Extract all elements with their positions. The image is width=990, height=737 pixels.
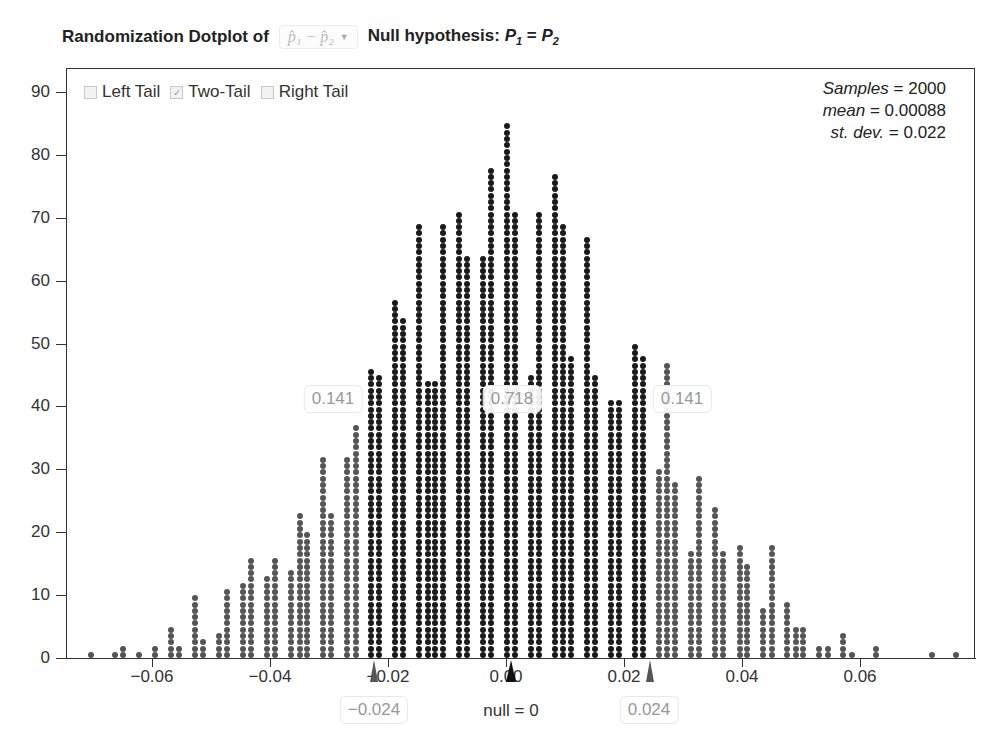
dot — [464, 388, 470, 394]
dot — [353, 576, 359, 582]
dot — [432, 388, 438, 394]
dot — [608, 602, 614, 608]
left-tail-checkbox[interactable]: Left Tail — [84, 82, 160, 102]
dot — [536, 539, 542, 545]
dot — [425, 425, 431, 431]
dot — [528, 583, 534, 589]
dot — [688, 627, 694, 633]
dot — [425, 602, 431, 608]
dot — [528, 558, 534, 564]
hypothesis-lhs: P1 — [505, 26, 522, 45]
dot — [640, 564, 646, 570]
dot — [608, 539, 614, 545]
dot — [552, 218, 558, 224]
dot — [136, 652, 142, 658]
dot — [536, 652, 542, 658]
dot — [664, 652, 670, 658]
dot — [512, 633, 518, 639]
dot — [480, 363, 486, 369]
dot — [592, 558, 598, 564]
dot — [560, 344, 566, 350]
dot — [376, 495, 382, 501]
dot — [480, 633, 486, 639]
dot — [528, 627, 534, 633]
dot — [504, 646, 510, 652]
dot — [304, 627, 310, 633]
dot — [512, 300, 518, 306]
dot — [552, 633, 558, 639]
dot — [488, 168, 494, 174]
dot — [512, 375, 518, 381]
dot — [552, 262, 558, 268]
dot — [272, 646, 278, 652]
right-cutoff-value[interactable]: 0.024 — [620, 696, 679, 724]
dot — [720, 646, 726, 652]
dot — [552, 363, 558, 369]
dot — [425, 539, 431, 545]
right-tail-checkbox[interactable]: Right Tail — [261, 82, 349, 102]
dot — [552, 174, 558, 180]
dot — [425, 488, 431, 494]
dot — [737, 545, 743, 551]
dot — [608, 432, 614, 438]
dot — [737, 583, 743, 589]
dot — [297, 646, 303, 652]
dot — [737, 564, 743, 570]
left-cutoff-value[interactable]: −0.024 — [340, 696, 408, 724]
dot — [464, 281, 470, 287]
dot — [304, 558, 310, 564]
dot — [416, 476, 422, 482]
dot — [425, 627, 431, 633]
dot — [552, 432, 558, 438]
dot — [568, 564, 574, 570]
dot — [696, 602, 702, 608]
dot — [640, 520, 646, 526]
right-cutoff-handle[interactable] — [646, 660, 654, 682]
dot — [425, 495, 431, 501]
dot — [464, 407, 470, 413]
dot — [392, 363, 398, 369]
dot — [425, 551, 431, 557]
dot — [376, 451, 382, 457]
dot — [584, 539, 590, 545]
dot — [464, 325, 470, 331]
dot — [568, 602, 574, 608]
dot — [672, 646, 678, 652]
dot — [488, 495, 494, 501]
dot — [425, 570, 431, 576]
dot — [552, 652, 558, 658]
dot — [504, 608, 510, 614]
dot — [353, 526, 359, 532]
dot — [552, 564, 558, 570]
dot — [353, 457, 359, 463]
null-hypothesis: Null hypothesis: P1 = P2 — [368, 26, 559, 47]
dot — [480, 501, 486, 507]
dot — [688, 602, 694, 608]
left-cutoff-handle[interactable] — [370, 660, 378, 682]
dot — [320, 501, 326, 507]
dot — [376, 646, 382, 652]
dot — [480, 520, 486, 526]
dot — [488, 193, 494, 199]
y-tick — [56, 344, 66, 345]
dot — [584, 589, 590, 595]
dot — [416, 558, 422, 564]
two-tail-checkbox[interactable]: ✓ Two-Tail — [170, 82, 250, 102]
dot — [552, 300, 558, 306]
dot — [536, 564, 542, 570]
dot — [584, 306, 590, 312]
dot — [552, 495, 558, 501]
dot — [264, 652, 270, 658]
statistic-selector[interactable]: p̂₁ − p̂₂ ▼ — [279, 25, 358, 49]
x-tick — [624, 659, 625, 667]
dot — [504, 237, 510, 243]
dot — [392, 457, 398, 463]
dot — [464, 451, 470, 457]
dot — [632, 388, 638, 394]
dot — [400, 363, 406, 369]
dot — [353, 444, 359, 450]
dot — [353, 520, 359, 526]
dot — [264, 589, 270, 595]
dot — [592, 602, 598, 608]
dot — [248, 602, 254, 608]
